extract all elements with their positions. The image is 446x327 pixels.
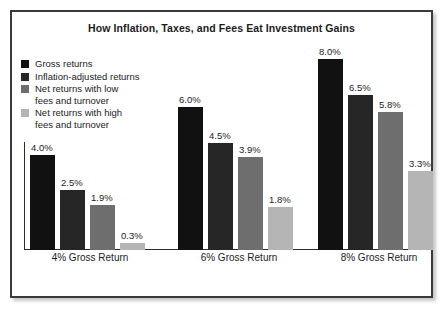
chart-title: How Inflation, Taxes, and Fees Eat Inves… <box>12 22 431 34</box>
bar <box>408 171 433 250</box>
bar-group-bars: 6.0%4.5%3.9%1.8% <box>178 40 300 250</box>
category-label: 8% Gross Return <box>318 252 440 263</box>
bar <box>90 205 115 250</box>
bar-group: 8.0%6.5%5.8%3.3%8% Gross Return <box>318 40 440 250</box>
bar-value-label: 6.0% <box>179 94 201 105</box>
category-label: 6% Gross Return <box>178 252 300 263</box>
bar-group-bars: 8.0%6.5%5.8%3.3% <box>318 40 440 250</box>
bar-value-label: 2.5% <box>61 177 83 188</box>
bar-column: 0.3% <box>120 40 145 250</box>
bar-value-label: 8.0% <box>319 46 341 57</box>
bar-group: 4.0%2.5%1.9%0.3%4% Gross Return <box>30 40 150 250</box>
bar-column: 5.8% <box>378 40 403 250</box>
bar-value-label: 3.3% <box>409 158 431 169</box>
bar <box>378 112 403 250</box>
bar-column: 8.0% <box>318 40 343 250</box>
category-label: 4% Gross Return <box>30 252 150 263</box>
bar-value-label: 6.5% <box>349 82 371 93</box>
bar-value-label: 4.5% <box>209 130 231 141</box>
bar <box>268 207 293 250</box>
bar <box>60 190 85 250</box>
bar <box>30 155 55 250</box>
bar-column: 3.9% <box>238 40 263 250</box>
bar <box>120 243 145 250</box>
bar-value-label: 5.8% <box>379 99 401 110</box>
bar-value-label: 4.0% <box>31 142 53 153</box>
bar-column: 6.0% <box>178 40 203 250</box>
bar-group: 6.0%4.5%3.9%1.8%6% Gross Return <box>178 40 300 250</box>
bar-column: 6.5% <box>348 40 373 250</box>
bar-column: 1.9% <box>90 40 115 250</box>
bar-value-label: 1.9% <box>91 192 113 203</box>
bar-column: 1.8% <box>268 40 293 250</box>
bar <box>178 107 203 250</box>
chart-figure: How Inflation, Taxes, and Fees Eat Inves… <box>10 10 433 298</box>
bar-value-label: 0.3% <box>121 230 143 241</box>
bar-group-bars: 4.0%2.5%1.9%0.3% <box>30 40 150 250</box>
bar <box>318 59 343 250</box>
bar-value-label: 1.8% <box>269 194 291 205</box>
bar-column: 2.5% <box>60 40 85 250</box>
bar <box>208 143 233 250</box>
bar-value-label: 3.9% <box>239 144 261 155</box>
y-axis-line <box>24 142 25 250</box>
bar-column: 4.5% <box>208 40 233 250</box>
bar-column: 3.3% <box>408 40 433 250</box>
plot-area: 4.0%2.5%1.9%0.3%4% Gross Return6.0%4.5%3… <box>24 46 425 292</box>
bar <box>238 157 263 250</box>
bar-column: 4.0% <box>30 40 55 250</box>
bar <box>348 95 373 250</box>
